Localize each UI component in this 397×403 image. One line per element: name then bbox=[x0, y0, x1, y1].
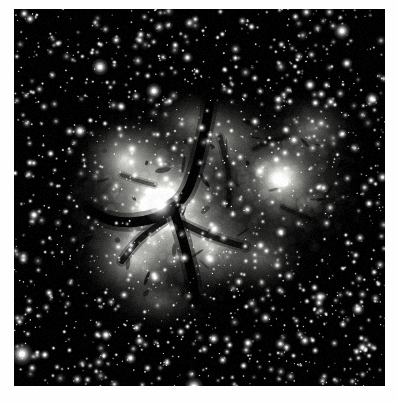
nebula-image-plate bbox=[14, 9, 385, 386]
page-canvas bbox=[0, 0, 397, 403]
plate-caption bbox=[100, 392, 260, 401]
nebula-sky-canvas bbox=[14, 9, 385, 386]
